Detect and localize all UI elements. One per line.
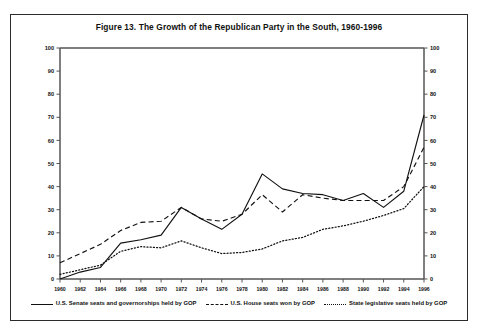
x-axis-tick-label: 1992 — [378, 286, 390, 292]
y-axis-right-tick-label: 50 — [430, 161, 436, 167]
y-axis-right-ticks: 0102030405060708090100 — [424, 45, 439, 282]
x-axis-tick-label: 1994 — [398, 286, 410, 292]
y-axis-left-tick-label: 30 — [48, 207, 54, 213]
y-axis-right-tick-label: 80 — [430, 91, 436, 97]
y-axis-left-tick-label: 10 — [48, 253, 54, 259]
legend-item-senate: U.S. Senate seats and governorships held… — [31, 301, 197, 307]
chart-svg: 0102030405060708090100 01020304050607080… — [11, 15, 469, 322]
y-axis-right-tick-label: 20 — [430, 230, 436, 236]
legend-item-state: State legislative seats held by GOP — [324, 301, 447, 307]
x-axis-tick-label: 1962 — [74, 286, 86, 292]
legend-label-senate: U.S. Senate seats and governorships held… — [56, 301, 197, 307]
y-axis-left-tick-label: 60 — [48, 138, 54, 144]
y-axis-right-tick-label: 90 — [430, 68, 436, 74]
x-axis-tick-label: 1996 — [418, 286, 430, 292]
y-axis-left-tick-label: 40 — [48, 184, 54, 190]
y-axis-left-tick-label: 90 — [48, 68, 54, 74]
legend-label-house: U.S. House seats won by GOP — [231, 301, 315, 307]
legend-line-dashed-icon — [206, 301, 228, 307]
y-axis-right-tick-label: 10 — [430, 253, 436, 259]
x-axis-tick-label: 1974 — [196, 286, 208, 292]
legend-item-house: U.S. House seats won by GOP — [206, 301, 315, 307]
x-axis-tick-label: 1960 — [54, 286, 66, 292]
x-axis-tick-label: 1980 — [256, 286, 268, 292]
x-axis-tick-label: 1988 — [337, 286, 349, 292]
x-axis-ticks: 1960196219641966196819701972197419761978… — [54, 279, 430, 292]
x-axis-tick-label: 1990 — [358, 286, 370, 292]
legend-line-dotted-icon — [324, 301, 346, 307]
y-axis-left-tick-label: 20 — [48, 230, 54, 236]
series-line-0 — [60, 115, 424, 279]
y-axis-right-tick-label: 40 — [430, 184, 436, 190]
y-axis-right-tick-label: 70 — [430, 114, 436, 120]
x-axis-tick-label: 1984 — [297, 286, 309, 292]
y-axis-right-tick-label: 30 — [430, 207, 436, 213]
figure-frame: Figure 13. The Growth of the Republican … — [10, 14, 468, 321]
x-axis-tick-label: 1970 — [155, 286, 167, 292]
x-axis-tick-label: 1968 — [135, 286, 147, 292]
x-axis-tick-label: 1978 — [236, 286, 248, 292]
legend-line-solid-icon — [31, 301, 53, 307]
data-series-group — [60, 115, 424, 279]
y-axis-left-tick-label: 80 — [48, 91, 54, 97]
y-axis-left-tick-label: 0 — [51, 276, 54, 282]
x-axis-tick-label: 1976 — [216, 286, 228, 292]
legend-label-state: State legislative seats held by GOP — [349, 301, 447, 307]
y-axis-left-ticks: 0102030405060708090100 — [45, 45, 60, 282]
x-axis-tick-label: 1986 — [317, 286, 329, 292]
y-axis-right-tick-label: 0 — [430, 276, 433, 282]
x-axis-tick-label: 1982 — [277, 286, 289, 292]
chart-legend: U.S. Senate seats and governorships held… — [11, 301, 467, 307]
chart-plot-area: 0102030405060708090100 01020304050607080… — [11, 15, 469, 322]
y-axis-right-tick-label: 100 — [430, 45, 439, 51]
x-axis-tick-label: 1964 — [95, 286, 107, 292]
series-line-2 — [60, 187, 424, 275]
series-line-1 — [60, 147, 424, 263]
y-axis-left-tick-label: 70 — [48, 114, 54, 120]
x-axis-tick-label: 1972 — [176, 286, 188, 292]
y-axis-right-tick-label: 60 — [430, 138, 436, 144]
y-axis-left-tick-label: 50 — [48, 161, 54, 167]
x-axis-tick-label: 1966 — [115, 286, 127, 292]
y-axis-left-tick-label: 100 — [45, 45, 54, 51]
